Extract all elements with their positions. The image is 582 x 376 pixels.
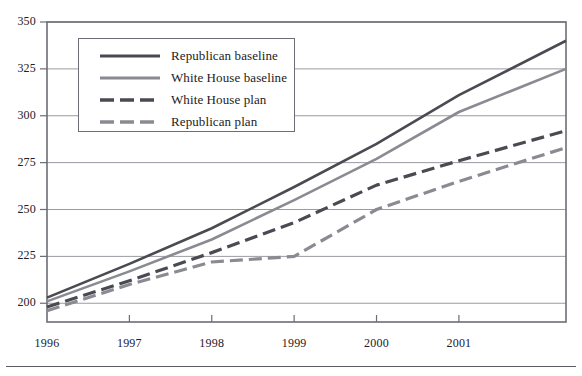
y-axis-tick-label: 350: [2, 14, 36, 29]
series-line: [47, 131, 566, 307]
chart-figure: 200225250275300325350 199619971998199920…: [0, 0, 582, 376]
legend-item-white-house-plan: White House plan: [79, 89, 294, 111]
page-bottom-rule: [6, 366, 576, 367]
legend-item-republican-plan: Republican plan: [79, 111, 294, 133]
series-line: [47, 148, 566, 311]
legend-item-republican-baseline: Republican baseline: [79, 45, 294, 67]
y-axis-tick-label: 225: [2, 248, 36, 263]
y-axis-tick-label: 325: [2, 61, 36, 76]
legend-swatch-solid-light: [99, 71, 161, 85]
y-axis-tick-label: 275: [2, 155, 36, 170]
x-axis-tick-label: 1997: [104, 336, 154, 351]
y-axis-tick-label: 200: [2, 295, 36, 310]
y-axis-tick-label: 250: [2, 202, 36, 217]
legend-swatch-dashed-light: [99, 115, 161, 129]
x-axis-tick-label: 1999: [269, 336, 319, 351]
legend-label-republican-baseline: Republican baseline: [171, 48, 278, 64]
chart-legend: Republican baseline White House baseline…: [78, 38, 295, 132]
legend-item-white-house-baseline: White House baseline: [79, 67, 294, 89]
legend-label-white-house-baseline: White House baseline: [171, 70, 287, 86]
x-axis-tick-label: 1998: [187, 336, 237, 351]
legend-label-white-house-plan: White House plan: [171, 92, 266, 108]
x-axis-ticks: [129, 315, 459, 322]
legend-label-republican-plan: Republican plan: [171, 114, 257, 130]
x-axis-tick-label: 2000: [352, 336, 402, 351]
legend-swatch-dashed-dark: [99, 93, 161, 107]
x-axis-tick-label: 1996: [22, 336, 72, 351]
y-axis-tick-label: 300: [2, 108, 36, 123]
legend-swatch-solid-dark: [99, 49, 161, 63]
x-axis-tick-label: 2001: [434, 336, 484, 351]
